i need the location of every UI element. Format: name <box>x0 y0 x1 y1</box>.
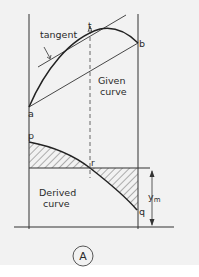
arrow-up-icon <box>150 170 155 177</box>
panel-label: A <box>79 250 87 263</box>
diagram-canvas: tangent t b a Given curve p r q Derived … <box>0 0 199 277</box>
label-given: Given <box>98 75 126 86</box>
label-derived: Derived <box>39 187 76 198</box>
label-curve-derived: curve <box>43 198 70 209</box>
label-q: q <box>139 206 145 217</box>
arrow-down-icon <box>150 219 155 226</box>
label-a: a <box>28 108 34 119</box>
label-t: t <box>88 21 92 31</box>
tangent-line <box>38 15 126 67</box>
label-r: r <box>91 158 95 168</box>
tangent-pointer <box>44 47 50 58</box>
label-b: b <box>139 38 145 49</box>
label-p: p <box>28 130 34 141</box>
label-tangent: tangent <box>40 29 77 40</box>
hatched-area-left <box>29 142 90 168</box>
footer-strip <box>0 265 199 277</box>
label-curve-given: curve <box>100 86 127 97</box>
label-ym: ym <box>148 191 161 204</box>
